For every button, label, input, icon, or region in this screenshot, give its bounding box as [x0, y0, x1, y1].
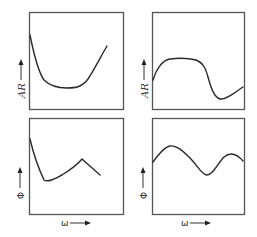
frequency-response-diagram: AR AR Φ ω Φ: [0, 0, 257, 237]
y-axis-label: AR: [139, 83, 150, 99]
panel-frame: [153, 119, 245, 215]
omega-axis-label-group: ω: [181, 218, 211, 228]
panel-top-left: AR: [16, 13, 124, 110]
x-axis-label: ω: [61, 218, 69, 228]
right-arrowhead-icon: [85, 221, 91, 226]
panel-frame: [30, 119, 124, 215]
ar-axis-label-group: AR: [16, 59, 27, 99]
amplitude-curve: [153, 58, 243, 99]
phase-curve: [153, 146, 243, 175]
phi-axis-label-group: Φ: [16, 167, 26, 199]
up-arrowhead-icon: [18, 167, 23, 173]
up-arrowhead-icon: [19, 59, 24, 65]
right-arrowhead-icon: [205, 221, 211, 226]
panel-frame: [30, 13, 124, 110]
ar-axis-label-group: AR: [139, 59, 150, 99]
panel-bottom-right: Φ ω: [139, 119, 245, 229]
panel-bottom-left: Φ ω: [16, 119, 124, 229]
x-axis-label: ω: [181, 218, 189, 228]
amplitude-curve: [30, 35, 107, 88]
panel-top-right: AR: [139, 13, 245, 110]
phase-curve: [30, 139, 100, 181]
phi-axis-label-group: Φ: [139, 167, 149, 199]
y-axis-label: AR: [16, 83, 27, 99]
omega-axis-label-group: ω: [61, 218, 91, 228]
y-axis-label: Φ: [139, 192, 149, 199]
up-arrowhead-icon: [141, 167, 146, 173]
y-axis-label: Φ: [16, 192, 26, 199]
up-arrowhead-icon: [142, 59, 147, 65]
